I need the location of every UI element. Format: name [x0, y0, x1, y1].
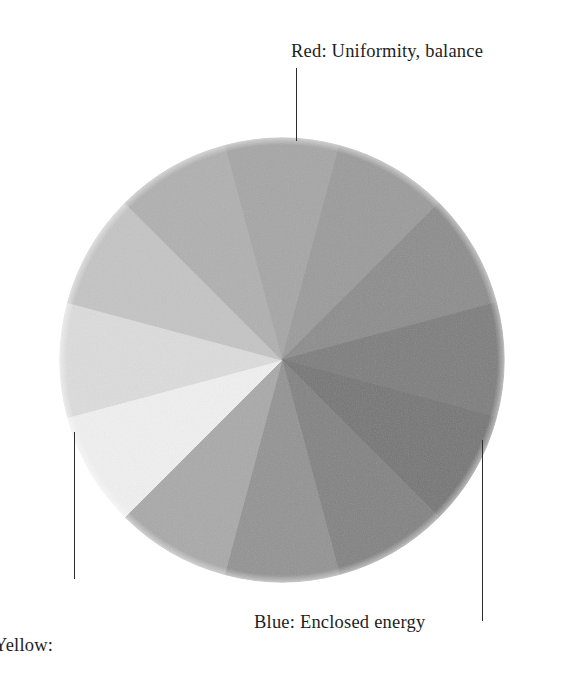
- callout-label-blue: Blue: Enclosed energy: [254, 607, 425, 638]
- color-wheel-figure: Red: Uniformity, balance Yellow: Radianc…: [0, 0, 573, 678]
- callout-label-yellow-line1: Yellow:: [0, 629, 64, 662]
- color-wheel-diagram: [0, 0, 573, 678]
- leader-line-blue: [482, 440, 483, 621]
- callout-label-yellow: Yellow: Radiance: [0, 563, 64, 678]
- leader-line-red: [296, 68, 297, 141]
- leader-line-yellow: [74, 432, 75, 579]
- disc-soft-edge: [58, 136, 506, 584]
- callout-label-red: Red: Uniformity, balance: [291, 36, 483, 67]
